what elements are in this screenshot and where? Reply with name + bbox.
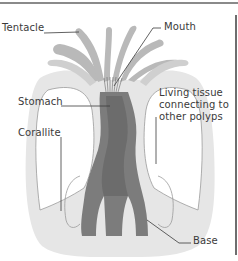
label-stomach: Stomach <box>18 96 63 108</box>
label-living-tissue: Living tissue connecting to other polyps <box>159 87 238 123</box>
label-mouth: Mouth <box>164 21 196 33</box>
label-tentacle: Tentacle <box>2 22 44 34</box>
label-base: Base <box>193 235 218 247</box>
diagram-frame: Tentacle Mouth Stomach Living tissue con… <box>0 0 238 261</box>
label-corallite: Corallite <box>18 127 61 139</box>
living-tissue-line-1: Living tissue <box>159 87 238 99</box>
tentacle-leader <box>44 32 79 33</box>
living-tissue-line-3: other polyps <box>159 111 238 123</box>
living-tissue-line-2: connecting to <box>159 99 238 111</box>
